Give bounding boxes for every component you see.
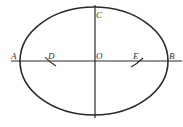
label-a: A <box>10 51 17 61</box>
label-d: D <box>47 51 55 61</box>
label-c: C <box>96 10 103 20</box>
label-o: O <box>96 51 103 61</box>
label-b: B <box>169 51 175 61</box>
label-e: E <box>132 51 139 61</box>
ellipse-diagram: A D O E B C <box>0 0 183 127</box>
